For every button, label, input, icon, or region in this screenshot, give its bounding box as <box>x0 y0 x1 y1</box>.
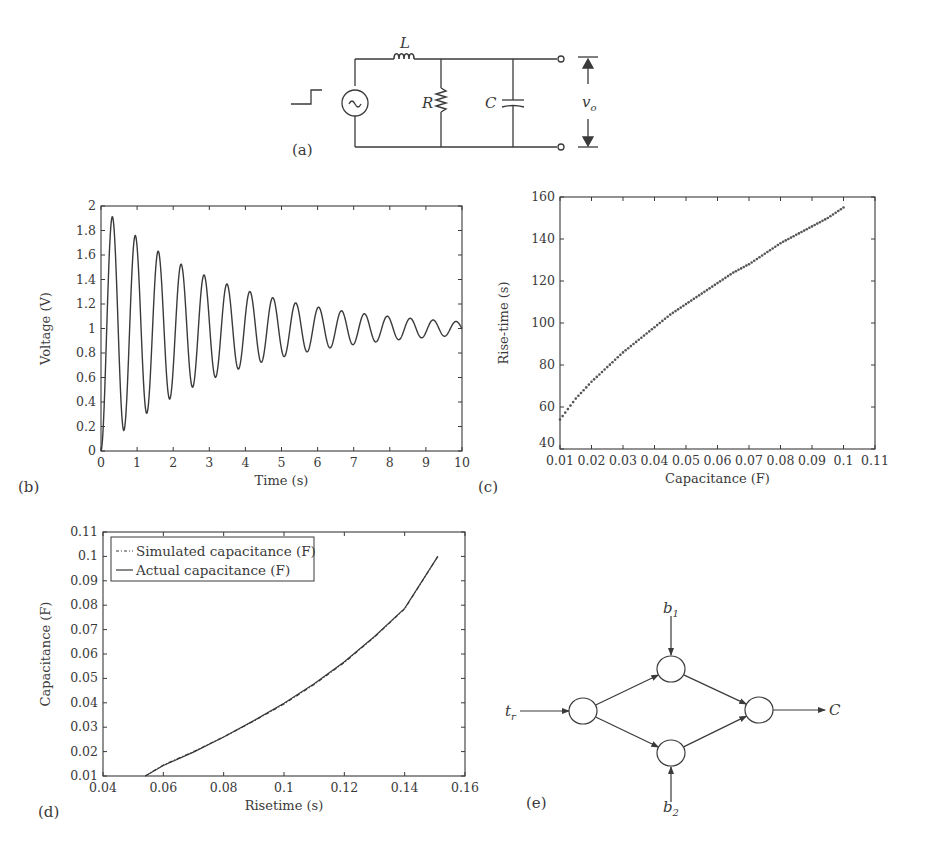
data-point <box>674 310 677 313</box>
risetime-vs-capacitance-chart: 0.010.020.030.040.050.060.070.080.090.10… <box>496 189 889 486</box>
data-point <box>643 334 646 337</box>
data-point <box>758 256 761 259</box>
data-point <box>724 277 727 280</box>
data-point <box>648 330 651 333</box>
data-point <box>569 404 572 407</box>
figure-canvas: L R C vo (a) 01234567891000.20.40.60.811… <box>0 0 925 860</box>
x-tick-label: 0.01 <box>546 453 574 468</box>
y-tick-label: 0.03 <box>70 719 98 734</box>
x-tick-label: 0.02 <box>578 453 606 468</box>
inductor-icon <box>394 54 414 59</box>
data-point <box>682 305 685 308</box>
data-point <box>795 234 798 237</box>
data-point <box>716 282 719 285</box>
data-point <box>635 341 638 344</box>
y-tick-label: 0.04 <box>70 695 98 710</box>
data-point <box>711 285 714 288</box>
y-axis-label: Voltage (V) <box>38 292 53 366</box>
data-point <box>598 373 601 376</box>
x-tick-label: 0.07 <box>735 453 763 468</box>
data-point <box>653 326 656 329</box>
data-point <box>619 354 622 357</box>
x-tick-label: 4 <box>241 455 249 470</box>
data-point <box>645 332 648 335</box>
data-point <box>784 239 787 242</box>
y-tick-label: 140 <box>531 231 555 246</box>
data-point <box>706 289 709 292</box>
data-point <box>737 269 740 272</box>
data-point <box>637 339 640 342</box>
data-point <box>800 231 803 234</box>
y-tick-label: 0.4 <box>76 394 96 409</box>
x-axis-label: Capacitance (F) <box>665 471 770 486</box>
y-tick-label: 0.09 <box>70 573 98 588</box>
data-point <box>693 298 696 301</box>
data-point <box>651 328 654 331</box>
connection-arrow <box>684 675 747 704</box>
data-point <box>595 376 598 379</box>
x-tick-label: 0.03 <box>609 453 637 468</box>
y-tick-label: 0.6 <box>76 370 96 385</box>
x-tick-label: 0.11 <box>861 453 889 468</box>
y-tick-label: 0.2 <box>76 419 96 434</box>
data-point <box>842 206 845 209</box>
y-tick-label: 1.2 <box>76 296 96 311</box>
data-point <box>588 383 591 386</box>
y-tick-label: 120 <box>531 273 555 288</box>
data-point <box>826 217 829 220</box>
y-tick-label: 1 <box>88 321 96 336</box>
x-tick-label: 0.06 <box>149 780 177 795</box>
rlc-circuit-diagram <box>291 54 598 150</box>
connection-arrow <box>684 716 747 747</box>
data-point <box>669 313 672 316</box>
data-point <box>819 221 822 224</box>
y-tick-label: 0.01 <box>70 768 98 783</box>
y-tick-label: 0.07 <box>70 622 98 637</box>
data-point <box>832 213 835 216</box>
x-tick-label: 7 <box>350 455 358 470</box>
bias-1-label: b1 <box>663 599 679 619</box>
data-point <box>590 381 593 384</box>
neuron-node-h2 <box>657 740 685 766</box>
simulated-series-line <box>145 556 438 776</box>
bias-2-label: b2 <box>663 798 679 818</box>
arrow-up-icon <box>583 59 593 68</box>
data-point <box>750 261 753 264</box>
arrow-down-icon <box>583 137 593 146</box>
x-tick-label: 0.08 <box>767 453 795 468</box>
x-tick-label: 0.14 <box>391 780 419 795</box>
data-point <box>745 264 748 267</box>
data-point <box>740 267 743 270</box>
resistor-icon <box>436 88 446 112</box>
data-point <box>756 258 759 261</box>
data-point <box>805 228 808 231</box>
panel-label-a: (a) <box>292 141 313 159</box>
network-output-label: C <box>829 701 841 719</box>
x-tick-label: 0.1 <box>274 780 294 795</box>
data-point <box>656 324 659 327</box>
data-point <box>700 292 703 295</box>
x-tick-label: 9 <box>422 455 430 470</box>
neuron-node-out <box>745 697 773 723</box>
plot-frame <box>560 197 875 449</box>
chart-legend: Simulated capacitance (F) Actual capacit… <box>111 537 316 581</box>
y-tick-label: 0.05 <box>70 670 98 685</box>
y-tick-label: 1.6 <box>76 247 96 262</box>
plot-frame <box>101 206 462 451</box>
y-tick-label: 0.8 <box>76 345 96 360</box>
panel-label-d: (d) <box>38 803 59 821</box>
inductor-label: L <box>399 34 410 52</box>
capacitor-label: C <box>485 94 497 112</box>
output-terminal-bottom <box>558 144 564 150</box>
y-axis-label: Capacitance (F) <box>38 602 53 707</box>
data-point <box>769 249 772 252</box>
data-point <box>624 349 627 352</box>
data-point <box>732 271 735 274</box>
x-tick-label: 1 <box>133 455 141 470</box>
data-point <box>727 275 730 278</box>
data-point <box>803 229 806 232</box>
y-tick-label: 2 <box>88 198 96 213</box>
data-point <box>779 242 782 245</box>
data-point <box>829 215 832 218</box>
data-point <box>632 343 635 346</box>
